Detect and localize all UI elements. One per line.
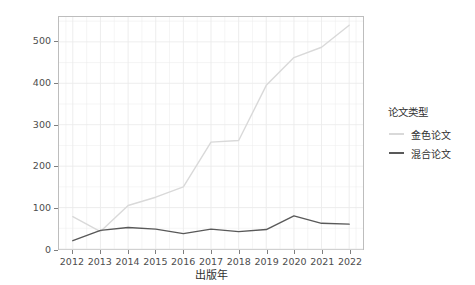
y-tick-label: 200 (3, 161, 51, 171)
x-tick-mark (211, 250, 212, 254)
y-tick-label: 0 (3, 245, 51, 255)
x-tick-mark (350, 250, 351, 254)
x-tick-mark (155, 250, 156, 254)
y-tick-label: 400 (3, 78, 51, 88)
legend-line-icon (388, 126, 405, 142)
legend-title: 论文类型 (388, 104, 472, 119)
series-line (73, 25, 349, 231)
legend-items: 金色论文混合论文 (388, 126, 472, 161)
legend-item[interactable]: 混合论文 (388, 145, 472, 161)
legend: 论文类型 金色论文混合论文 (388, 104, 472, 164)
legend-label: 混合论文 (411, 146, 451, 161)
x-tick-mark (183, 250, 184, 254)
x-tick-mark (267, 250, 268, 254)
legend-label: 金色论文 (411, 127, 451, 142)
plot-panel (58, 16, 364, 250)
x-tick-mark (128, 250, 129, 254)
x-tick-mark (100, 250, 101, 254)
x-tick-mark (239, 250, 240, 254)
y-tick-mark (54, 250, 58, 251)
y-tick-label: 300 (3, 120, 51, 130)
x-tick-mark (294, 250, 295, 254)
x-tick-mark (72, 250, 73, 254)
legend-item[interactable]: 金色论文 (388, 126, 472, 142)
legend-line-icon (388, 145, 405, 161)
x-tick-mark (322, 250, 323, 254)
series-line (73, 216, 349, 241)
y-tick-label: 100 (3, 203, 51, 213)
y-tick-label: 500 (3, 36, 51, 46)
series-lines (59, 17, 363, 249)
x-axis-title: 出版年 (58, 266, 364, 282)
chart-figure: APC费用（万元） 0100200300400500 2012201320142… (0, 0, 475, 285)
